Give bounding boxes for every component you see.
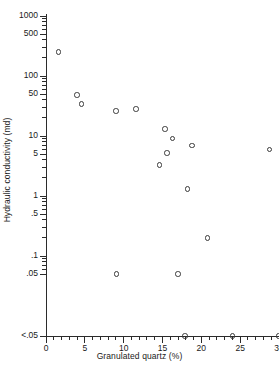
- y-minor-tick: [42, 269, 47, 270]
- x-minor-tick: [139, 337, 140, 340]
- y-minor-tick: [42, 201, 47, 202]
- data-point: [230, 333, 235, 338]
- y-minor-tick: [42, 167, 47, 168]
- y-minor-tick: [42, 57, 47, 58]
- y-tick-label: <.05: [21, 331, 38, 340]
- y-tick-label: 1: [33, 191, 38, 200]
- y-minor-tick: [42, 138, 47, 139]
- data-point: [205, 235, 210, 240]
- y-tick: [40, 136, 47, 137]
- y-minor-tick: [42, 25, 47, 26]
- y-minor-tick: [42, 159, 47, 160]
- x-minor-tick: [108, 337, 109, 340]
- y-tick-label: .05: [26, 269, 38, 278]
- data-point: [113, 108, 118, 113]
- x-minor-tick: [170, 337, 171, 340]
- y-tick: [40, 76, 47, 77]
- y-axis-line: [46, 14, 47, 337]
- x-minor-tick: [77, 337, 78, 340]
- x-minor-tick: [224, 337, 225, 340]
- x-minor-tick: [271, 337, 272, 340]
- data-point: [170, 136, 175, 141]
- y-minor-tick: [42, 261, 47, 262]
- y-tick-label: 500: [24, 29, 38, 38]
- y-tick-label: 5: [33, 149, 38, 158]
- y-minor-tick: [42, 21, 47, 22]
- data-point: [79, 101, 84, 106]
- y-minor-tick: [42, 18, 47, 19]
- y-minor-tick: [42, 117, 47, 118]
- x-axis-label-text: Granulated quartz (%): [97, 351, 183, 361]
- y-minor-tick: [42, 237, 47, 238]
- x-minor-tick: [61, 337, 62, 340]
- scatter-chart: Hydraulic conductivity (md) 100050010050…: [0, 0, 279, 368]
- y-minor-tick: [42, 265, 47, 266]
- y-minor-tick: [42, 107, 47, 108]
- x-axis-label: Granulated quartz (%): [0, 351, 279, 361]
- y-minor-tick: [42, 209, 47, 210]
- y-minor-tick: [42, 149, 47, 150]
- y-minor-tick: [42, 89, 47, 90]
- y-minor-tick: [42, 81, 47, 82]
- y-minor-tick: [42, 177, 47, 178]
- data-point: [162, 126, 167, 131]
- x-minor-tick: [92, 337, 93, 340]
- x-minor-tick: [247, 337, 248, 340]
- y-minor-tick: [42, 29, 47, 30]
- x-minor-tick: [69, 337, 70, 340]
- y-minor-tick: [42, 227, 47, 228]
- x-minor-tick: [154, 337, 155, 340]
- data-point: [114, 271, 119, 276]
- data-point: [56, 49, 61, 54]
- y-minor-tick: [42, 78, 47, 79]
- data-point: [267, 147, 272, 152]
- data-point: [185, 186, 190, 191]
- data-point: [189, 143, 194, 148]
- data-point: [157, 162, 162, 167]
- x-minor-tick: [209, 337, 210, 340]
- data-point: [276, 333, 279, 338]
- x-minor-tick: [178, 337, 179, 340]
- y-minor-tick: [42, 219, 47, 220]
- y-tick-label: .1: [31, 251, 38, 260]
- y-tick-label: 100: [24, 71, 38, 80]
- y-minor-tick: [42, 274, 47, 275]
- y-minor-tick: [42, 99, 47, 100]
- y-tick: [40, 256, 47, 257]
- x-minor-tick: [263, 337, 264, 340]
- y-tick-label: 10: [29, 131, 38, 140]
- y-axis-label: Hydraulic conductivity (md): [0, 0, 14, 340]
- y-minor-tick: [42, 214, 47, 215]
- y-tick: [40, 196, 47, 197]
- data-point: [164, 150, 169, 155]
- x-minor-tick: [193, 337, 194, 340]
- y-minor-tick: [42, 34, 47, 35]
- y-tick-label: .5: [31, 209, 38, 218]
- data-point: [74, 92, 79, 97]
- y-minor-tick: [42, 145, 47, 146]
- y-minor-tick: [42, 39, 47, 40]
- x-minor-tick: [53, 337, 54, 340]
- x-minor-tick: [255, 337, 256, 340]
- y-minor-tick: [42, 205, 47, 206]
- y-minor-tick: [42, 94, 47, 95]
- y-tick-label: 50: [29, 89, 38, 98]
- data-point: [182, 333, 187, 338]
- y-minor-tick: [42, 198, 47, 199]
- y-minor-tick: [42, 154, 47, 155]
- y-tick: [40, 16, 47, 17]
- y-minor-tick: [42, 85, 47, 86]
- data-point: [133, 106, 138, 111]
- y-tick-label: 1000: [19, 11, 38, 20]
- data-point: [175, 271, 180, 276]
- y-minor-tick: [42, 258, 47, 259]
- x-minor-tick: [100, 337, 101, 340]
- x-minor-tick: [146, 337, 147, 340]
- y-minor-tick: [42, 47, 47, 48]
- y-axis-label-text: Hydraulic conductivity (md): [2, 118, 12, 223]
- x-minor-tick: [115, 337, 116, 340]
- x-minor-tick: [131, 337, 132, 340]
- y-minor-tick: [42, 141, 47, 142]
- x-minor-tick: [216, 337, 217, 340]
